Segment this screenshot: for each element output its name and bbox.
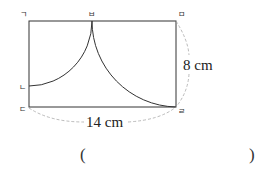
width-dim-arc-left — [29, 108, 84, 122]
arc-right — [92, 21, 176, 107]
answer-blank[interactable] — [92, 143, 244, 163]
answer-close-paren: ) — [249, 145, 255, 164]
vertex-label-bottom-right: ㄹ — [178, 107, 185, 116]
vertex-label-top-left: ㄱ — [20, 10, 27, 19]
vertex-label-left-mid: ㄴ — [19, 83, 26, 92]
height-dim-arc-bottom — [176, 74, 189, 107]
width-label: 14 cm — [86, 114, 123, 130]
vertex-label-top-right: ㅁ — [178, 10, 185, 19]
vertex-label-top-mid: ㅂ — [88, 10, 95, 19]
arc-left — [29, 21, 92, 86]
height-label: 8 cm — [183, 57, 213, 73]
vertex-label-bottom-left: ㄷ — [19, 105, 26, 114]
height-dim-arc-top — [176, 21, 189, 55]
answer-open-paren: ( — [80, 145, 86, 164]
width-dim-arc-right — [128, 107, 176, 122]
rectangle — [29, 21, 176, 107]
geometry-figure: ㄱ ㅂ ㅁ ㄴ ㄷ ㄹ 8 cm 14 cm ( ) — [0, 0, 267, 174]
